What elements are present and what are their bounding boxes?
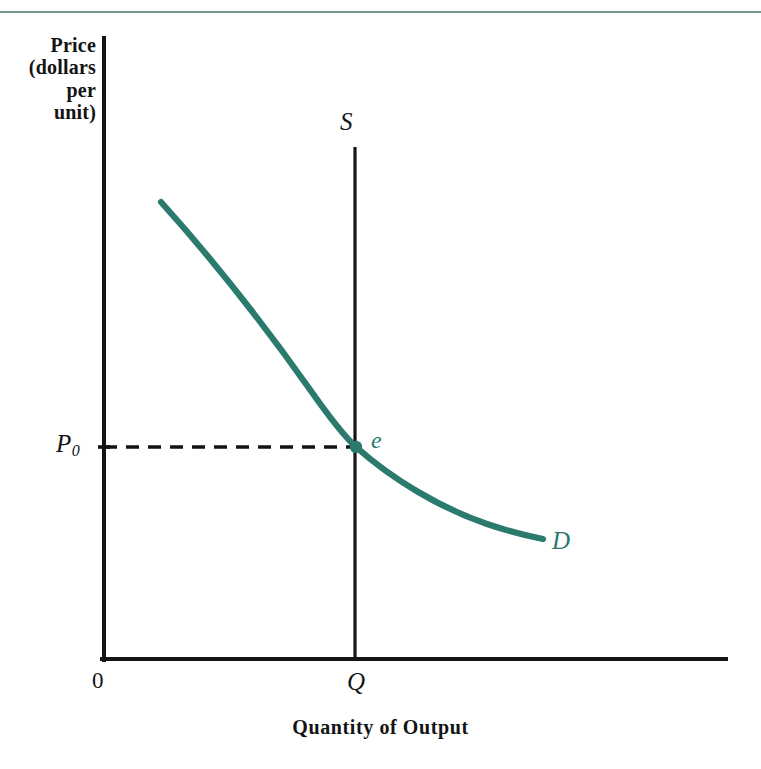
chart-canvas: [0, 0, 761, 769]
equilibrium-price-subscript: 0: [72, 442, 80, 459]
origin-label: 0: [92, 668, 104, 694]
figure-container: Price (dollars per unit) Quantity of Out…: [0, 0, 761, 769]
demand-curve-label: D: [552, 527, 570, 555]
y-axis-title: Price (dollars per unit): [10, 34, 96, 124]
equilibrium-price-label: P0: [56, 430, 80, 460]
equilibrium-quantity-label: Q: [347, 668, 365, 696]
equilibrium-point-marker: [350, 441, 362, 453]
x-axis-title: Quantity of Output: [0, 716, 761, 739]
equilibrium-point-label: e: [371, 427, 382, 454]
demand-curve-line: [161, 202, 543, 539]
equilibrium-price-symbol: P: [56, 430, 71, 457]
supply-curve-label: S: [340, 108, 353, 136]
